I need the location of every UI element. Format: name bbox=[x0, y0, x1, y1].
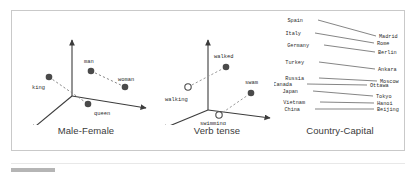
label-walking: walking bbox=[165, 97, 188, 103]
link-italy-rome bbox=[315, 33, 374, 43]
label-capital-tokyo: Tokyo bbox=[376, 94, 392, 100]
panel-male-female: king queen man woman Male-Female bbox=[12, 11, 160, 152]
link-japan-tokyo bbox=[313, 91, 373, 96]
point-swam bbox=[248, 90, 255, 97]
label-woman: woman bbox=[118, 77, 134, 83]
panel-title-verb-tense: Verb tense bbox=[152, 125, 282, 136]
panel-title-male-female: Male-Female bbox=[12, 125, 160, 136]
point-swimming bbox=[216, 112, 222, 118]
label-capital-ankara: Ankara bbox=[378, 67, 397, 73]
male-female-plot: king queen man woman bbox=[12, 11, 160, 125]
label-country-spain: Spain bbox=[287, 18, 303, 24]
label-capital-ottawa: Ottawa bbox=[370, 83, 389, 89]
label-capital-madrid: Madrid bbox=[379, 34, 398, 40]
label-country-germany: Germany bbox=[287, 43, 309, 49]
capital-labels: Madrid Rome Berlin Ankara Moscow Ottawa … bbox=[370, 34, 400, 113]
verb-tense-plot: walked walking swam swimming bbox=[152, 11, 282, 125]
pair-links bbox=[307, 20, 377, 109]
label-country-vietnam: Vietnam bbox=[283, 100, 305, 106]
figure-frame: king queen man woman Male-Female bbox=[11, 10, 405, 151]
link-germany-berlin bbox=[324, 45, 375, 52]
panel-verb-tense: walked walking swam swimming Verb tense bbox=[152, 11, 282, 152]
country-labels: Spain Italy Germany Turkey Russia Canada… bbox=[274, 18, 309, 113]
link-vietnam-hanoi bbox=[320, 102, 374, 103]
page-divider bbox=[11, 163, 405, 164]
dashed-link-swimming-swam bbox=[219, 93, 251, 115]
label-country-italy: Italy bbox=[285, 31, 301, 37]
link-canada-ottawa bbox=[307, 84, 367, 85]
panel-country-capital: Spain Italy Germany Turkey Russia Canada… bbox=[274, 11, 406, 152]
label-capital-rome: Rome bbox=[377, 41, 389, 47]
caption-placeholder-bar bbox=[11, 168, 55, 172]
panel-title-country-capital: Country-Capital bbox=[274, 125, 406, 136]
link-turkey-ankara bbox=[319, 62, 375, 69]
point-man bbox=[88, 68, 95, 75]
label-capital-beijing: Beijing bbox=[377, 107, 399, 113]
label-queen: queen bbox=[94, 111, 110, 117]
dashed-link-walking-walked bbox=[188, 67, 226, 87]
label-swam: swam bbox=[245, 80, 258, 86]
connection-king-queen bbox=[49, 77, 88, 104]
point-queen bbox=[85, 101, 92, 108]
point-woman bbox=[122, 84, 129, 91]
link-spain-madrid bbox=[318, 20, 376, 36]
point-king bbox=[46, 74, 53, 81]
country-capital-plot: Spain Italy Germany Turkey Russia Canada… bbox=[274, 11, 406, 125]
point-walking bbox=[185, 84, 191, 90]
label-country-japan: Japan bbox=[282, 89, 298, 95]
label-country-canada: Canada bbox=[274, 82, 292, 88]
label-country-turkey: Turkey bbox=[285, 60, 304, 66]
link-russia-moscow bbox=[319, 78, 377, 81]
dashed-link bbox=[49, 77, 88, 104]
axis-z bbox=[31, 96, 72, 125]
label-man: man bbox=[84, 59, 94, 65]
label-walked: walked bbox=[214, 54, 233, 60]
point-walked bbox=[223, 64, 230, 71]
label-capital-berlin: Berlin bbox=[378, 50, 397, 56]
label-country-china: China bbox=[284, 107, 300, 113]
label-king: king bbox=[32, 85, 45, 91]
axis-x bbox=[72, 96, 146, 108]
